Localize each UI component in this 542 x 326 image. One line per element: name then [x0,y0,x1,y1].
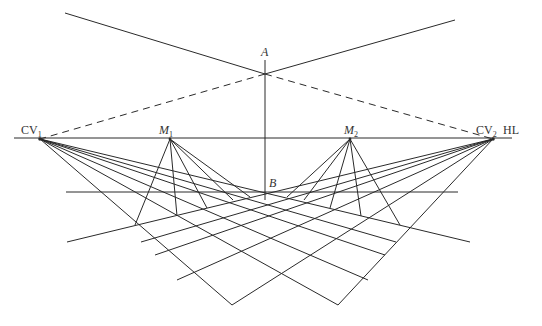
label-hl: HL [503,124,519,136]
label-cv1-main: CV [21,123,38,137]
label-cv2-main: CV [476,123,493,137]
label-m1-sub: 1 [169,130,173,139]
label-m1: M1 [159,124,173,136]
label-b-text: B [269,176,276,190]
label-hl-text: HL [503,123,519,137]
label-cv1-sub: 1 [38,130,42,139]
label-cv1: CV1 [21,124,42,136]
label-m2: M2 [344,124,358,136]
label-cv2: CV2 [476,124,497,136]
cv1-fan-lines [40,139,470,305]
upper-left-line [65,13,265,74]
label-cv2-sub: 2 [493,130,497,139]
label-b: B [269,177,276,189]
label-a: A [261,46,268,58]
upper-right-line [265,20,455,74]
label-m2-main: M [344,123,354,137]
cv2-fan-lines [67,139,493,305]
m2-point [349,138,352,141]
label-a-text: A [261,45,268,59]
dashed-line-a-cv1 [40,74,265,139]
perspective-diagram [0,0,542,326]
label-m2-sub: 2 [354,130,358,139]
label-m1-main: M [159,123,169,137]
dashed-line-a-cv2 [265,74,493,139]
